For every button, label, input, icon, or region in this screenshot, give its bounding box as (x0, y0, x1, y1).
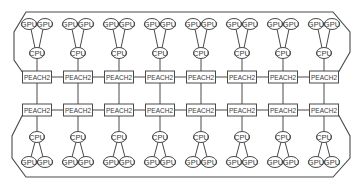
bottom-node-1-cpu-label: CPU (29, 133, 45, 142)
top-node-2-gpu-2-label: GPU (78, 20, 94, 29)
bottom-cpu-gpu-link (277, 142, 281, 157)
top-node-2-gpu-2: GPU (78, 19, 94, 30)
bottom-node-3-gpu-1-label: GPU (103, 158, 119, 167)
bottom-node-3-cpu: CPU (111, 132, 127, 143)
bottom-node-2-gpu-1-label: GPU (62, 158, 78, 167)
top-node-1-gpu-2-label: GPU (37, 20, 53, 29)
top-node-1-peach2-label: PEACH2 (24, 73, 50, 82)
top-node-7-peach2: PEACH2 (269, 71, 298, 83)
top-node-1-cpu-label: CPU (29, 49, 45, 58)
top-node-8-gpu-2-label: GPU (324, 20, 340, 29)
bottom-node-7-peach2-label: PEACH2 (270, 106, 296, 115)
bottom-cpu-gpu-link (236, 142, 240, 157)
bottom-node-7-gpu-2: GPU (283, 157, 299, 168)
bottom-cpu-gpu-link (244, 142, 248, 157)
top-node-1-peach2: PEACH2 (23, 71, 52, 83)
top-gpu-cpu-link (39, 29, 43, 48)
top-node-7-gpu-2-label: GPU (283, 20, 299, 29)
bottom-node-6-gpu-1: GPU (226, 157, 242, 168)
bottom-node-5-cpu-label: CPU (193, 133, 209, 142)
top-node-8-gpu-1-label: GPU (308, 20, 324, 29)
bottom-node-2-peach2-label: PEACH2 (65, 106, 91, 115)
top-node-4-cpu-label: CPU (152, 49, 168, 58)
bottom-node-8-gpu-2: GPU (324, 157, 340, 168)
bottom-cpu-gpu-link (326, 142, 330, 157)
nodes-layer: GPUGPUCPUPEACH2PEACH2CPUGPUGPUGPUGPUCPUP… (21, 19, 340, 168)
top-node-5-gpu-1: GPU (185, 19, 201, 30)
top-node-7-gpu-1: GPU (267, 19, 283, 30)
top-gpu-cpu-link (31, 29, 35, 48)
bottom-node-6-gpu-2-label: GPU (242, 158, 258, 167)
bottom-node-6-cpu-label: CPU (234, 133, 250, 142)
top-node-6-cpu: CPU (234, 48, 250, 59)
bottom-cpu-gpu-link (195, 142, 199, 157)
bottom-node-8-cpu: CPU (316, 132, 332, 143)
top-node-2-gpu-1-label: GPU (62, 20, 78, 29)
bottom-node-1-gpu-1-label: GPU (21, 158, 37, 167)
bottom-node-6-gpu-1-label: GPU (226, 158, 242, 167)
bottom-node-8-gpu-2-label: GPU (324, 158, 340, 167)
top-node-6-gpu-2-label: GPU (242, 20, 258, 29)
bottom-cpu-gpu-link (162, 142, 166, 157)
bottom-node-1-gpu-2-label: GPU (37, 158, 53, 167)
top-node-6-cpu-label: CPU (234, 49, 250, 58)
bottom-node-4-gpu-1-label: GPU (144, 158, 160, 167)
top-gpu-cpu-link (203, 29, 207, 48)
bottom-node-4-cpu-label: CPU (152, 133, 168, 142)
top-gpu-cpu-link (326, 29, 330, 48)
top-node-4-peach2: PEACH2 (146, 71, 175, 83)
top-node-3-gpu-1-label: GPU (103, 20, 119, 29)
top-gpu-cpu-link (318, 29, 322, 48)
top-node-3-cpu-label: CPU (111, 49, 127, 58)
bottom-node-3-cpu-label: CPU (111, 133, 127, 142)
bottom-node-8-gpu-1-label: GPU (308, 158, 324, 167)
top-gpu-cpu-link (162, 29, 166, 48)
bottom-node-8-peach2: PEACH2 (310, 104, 339, 116)
top-node-4-gpu-1: GPU (144, 19, 160, 30)
peach2-ring-topology-diagram: GPUGPUCPUPEACH2PEACH2CPUGPUGPUGPUGPUCPUP… (0, 0, 361, 189)
bottom-cpu-gpu-link (39, 142, 43, 157)
bottom-node-4-gpu-2-label: GPU (160, 158, 176, 167)
top-gpu-cpu-link (277, 29, 281, 48)
top-gpu-cpu-link (244, 29, 248, 48)
top-node-8-peach2: PEACH2 (310, 71, 339, 83)
bottom-node-8-peach2-label: PEACH2 (311, 106, 337, 115)
top-node-3-peach2-label: PEACH2 (106, 73, 132, 82)
top-node-3-gpu-2-label: GPU (119, 20, 135, 29)
top-node-8-cpu: CPU (316, 48, 332, 59)
top-node-4-cpu: CPU (152, 48, 168, 59)
bottom-node-4-gpu-1: GPU (144, 157, 160, 168)
top-node-1-gpu-2: GPU (37, 19, 53, 30)
top-node-1-cpu: CPU (29, 48, 45, 59)
bottom-node-5-gpu-2: GPU (201, 157, 217, 168)
top-node-3-peach2: PEACH2 (105, 71, 134, 83)
bottom-node-2-gpu-2-label: GPU (78, 158, 94, 167)
bottom-node-4-peach2-label: PEACH2 (147, 106, 173, 115)
bottom-cpu-gpu-link (318, 142, 322, 157)
top-node-7-cpu: CPU (275, 48, 291, 59)
bottom-node-5-peach2: PEACH2 (187, 104, 216, 116)
top-gpu-cpu-link (285, 29, 289, 48)
bottom-node-3-peach2: PEACH2 (105, 104, 134, 116)
top-gpu-cpu-link (121, 29, 125, 48)
bottom-ring-connector (12, 114, 350, 177)
top-node-5-gpu-1-label: GPU (185, 20, 201, 29)
top-gpu-cpu-link (80, 29, 84, 48)
top-node-5-cpu: CPU (193, 48, 209, 59)
top-node-8-gpu-2: GPU (324, 19, 340, 30)
top-node-5-gpu-2-label: GPU (201, 20, 217, 29)
bottom-node-6-cpu: CPU (234, 132, 250, 143)
bottom-node-3-gpu-2-label: GPU (119, 158, 135, 167)
bottom-node-5-cpu: CPU (193, 132, 209, 143)
top-node-5-cpu-label: CPU (193, 49, 209, 58)
top-node-6-gpu-2: GPU (242, 19, 258, 30)
bottom-node-8-cpu-label: CPU (316, 133, 332, 142)
top-node-7-cpu-label: CPU (275, 49, 291, 58)
bottom-node-7-gpu-1: GPU (267, 157, 283, 168)
bottom-node-7-cpu: CPU (275, 132, 291, 143)
bottom-node-7-gpu-1-label: GPU (267, 158, 283, 167)
top-node-8-cpu-label: CPU (316, 49, 332, 58)
top-node-4-gpu-2: GPU (160, 19, 176, 30)
bottom-node-1-gpu-1: GPU (21, 157, 37, 168)
top-node-2-cpu: CPU (70, 48, 86, 59)
